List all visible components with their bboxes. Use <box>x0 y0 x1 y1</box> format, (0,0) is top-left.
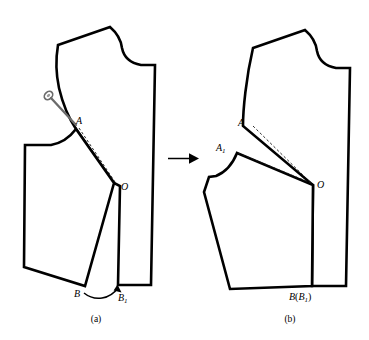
panel-a: A O B B1 (a) <box>24 27 155 325</box>
transition-right-arrow-icon <box>168 153 199 164</box>
panel-a-label-A: A <box>75 115 83 126</box>
panel-a-caption: (a) <box>91 314 102 325</box>
panel-b-label-O: O <box>317 179 324 190</box>
panel-b-lower-pattern-piece <box>204 153 313 289</box>
panel-b: A A1 O B(B1) (b) <box>204 30 350 325</box>
dart-rotation-diagram: A O B B1 (a) A A1 <box>0 0 369 340</box>
panel-a-label-B1: B1 <box>118 292 128 305</box>
panel-b-label-A: A <box>237 117 245 128</box>
panel-b-caption: (b) <box>284 314 295 325</box>
panel-a-label-O: O <box>121 181 128 192</box>
panel-b-label-A1: A1 <box>215 142 226 155</box>
figure-root: A O B B1 (a) A A1 <box>0 0 369 340</box>
panel-a-rotation-arrow <box>84 285 122 299</box>
panel-a-label-B: B <box>74 288 80 299</box>
panel-b-label-B-combined: B(B1) <box>289 291 311 304</box>
